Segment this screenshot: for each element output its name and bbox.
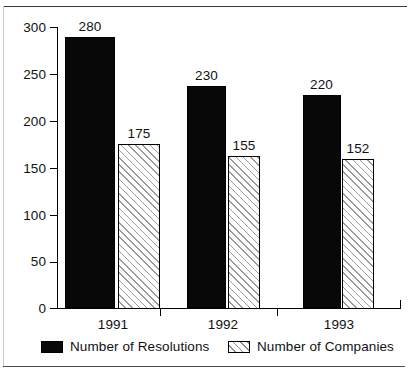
legend-item-resolutions: Number of Resolutions [41,338,209,356]
plot-area: 300 250 200 150 100 50 0 280 175 1991 23… [0,0,412,377]
bar-value-1991-companies: 175 [116,127,162,141]
bar-1993-companies [342,159,374,309]
x-axis-tick-2 [277,308,278,316]
y-axis-tick-0 [50,308,57,309]
y-axis-tick-250 [50,74,57,75]
y-axis-label-50: 50 [31,255,46,269]
y-axis-tick-100 [50,215,57,216]
y-axis-tick-150 [50,168,57,169]
x-axis-tick-1 [160,308,161,316]
y-axis-label-100: 100 [23,209,46,223]
y-axis-label-0: 0 [38,302,46,316]
bar-chart-figure: 300 250 200 150 100 50 0 280 175 1991 23… [0,0,412,377]
legend-item-companies: Number of Companies [228,338,394,356]
y-axis-label-300: 300 [23,21,46,35]
y-axis-tick-50 [50,262,57,263]
x-axis-category-1992: 1992 [194,318,252,332]
y-axis-line [57,27,58,309]
chart-legend: Number of Resolutions Number of Companie… [0,338,412,360]
x-axis-tick-end [400,300,401,309]
x-axis-category-1993: 1993 [310,318,368,332]
bar-value-1991-resolutions: 280 [65,20,115,34]
bar-1992-companies [228,156,260,309]
legend-label-resolutions: Number of Resolutions [70,340,209,354]
bar-1993-resolutions [303,95,341,308]
y-axis-tick-200 [50,121,57,122]
bar-value-1993-companies: 152 [338,142,378,156]
x-axis-category-1991: 1991 [84,318,142,332]
y-axis-label-200: 200 [23,115,46,129]
bar-value-1993-resolutions: 220 [301,78,342,92]
bar-1991-companies [118,144,160,308]
bar-value-1992-companies: 155 [224,139,264,153]
legend-swatch-hatched-icon [228,341,250,353]
bar-1991-resolutions [65,37,115,308]
y-axis-label-250: 250 [23,68,46,82]
bar-1992-resolutions [187,86,226,308]
legend-label-companies: Number of Companies [257,340,394,354]
y-axis-tick-300 [50,27,57,28]
legend-swatch-solid-icon [41,341,63,353]
y-axis-label-150: 150 [23,162,46,176]
bar-value-1992-resolutions: 230 [186,69,227,83]
